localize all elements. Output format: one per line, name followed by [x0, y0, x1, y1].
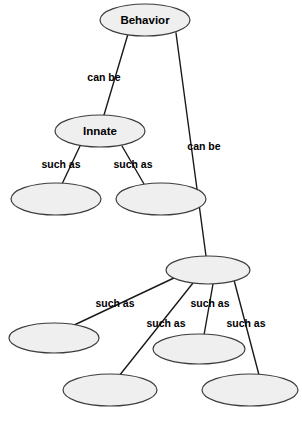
edge-label-label-can-be-1: can be	[87, 71, 120, 83]
edge-label-label-such-as-2: such as	[113, 158, 152, 170]
node-behavior[interactable]: Behavior	[100, 4, 190, 36]
node-label-innate: Innate	[83, 125, 117, 137]
edge-label-label-such-as-5: such as	[190, 297, 229, 309]
node-shape-innate-child-2[interactable]	[116, 183, 206, 215]
edge-label-label-such-as-4: such as	[146, 317, 185, 329]
edge-label-label-such-as-1: such as	[41, 158, 80, 170]
node-learned-child-3[interactable]	[153, 334, 245, 364]
node-shape-learned-child-3[interactable]	[153, 334, 245, 364]
node-shape-learned[interactable]	[166, 256, 250, 284]
node-learned[interactable]	[166, 256, 250, 284]
node-innate-child-2[interactable]	[116, 183, 206, 215]
node-innate-child-1[interactable]	[11, 183, 101, 215]
node-learned-child-4[interactable]	[202, 374, 298, 406]
edge-learned-child3	[204, 284, 213, 335]
concept-map-svg: BehaviorInnate can becan besuch assuch a…	[0, 0, 302, 422]
concept-map-canvas: BehaviorInnate can becan besuch assuch a…	[0, 0, 302, 422]
node-shape-innate-child-1[interactable]	[11, 183, 101, 215]
node-shape-learned-child-1[interactable]	[9, 323, 99, 353]
nodes-layer: BehaviorInnate	[9, 4, 298, 406]
edge-label-label-such-as-3: such as	[95, 297, 134, 309]
node-innate[interactable]: Innate	[55, 115, 145, 147]
node-label-behavior: Behavior	[120, 14, 170, 26]
node-learned-child-2[interactable]	[63, 374, 157, 406]
node-learned-child-1[interactable]	[9, 323, 99, 353]
edge-label-label-can-be-2: can be	[187, 140, 220, 152]
node-shape-learned-child-4[interactable]	[202, 374, 298, 406]
node-shape-learned-child-2[interactable]	[63, 374, 157, 406]
edge-label-label-such-as-6: such as	[226, 317, 265, 329]
